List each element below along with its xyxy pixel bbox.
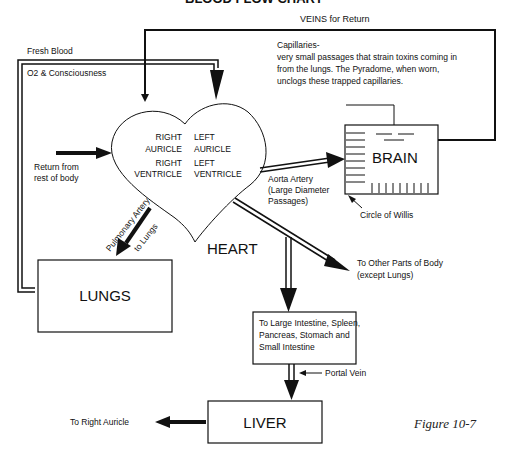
aorta-label-2: (Large Diameter xyxy=(268,185,330,195)
capillaries-line-3: unclogs these trapped capillaries. xyxy=(277,76,403,86)
heart-label: HEART xyxy=(207,240,258,257)
intestine-label: To Large Intestine, Spleen, xyxy=(259,318,360,328)
capillaries-title: Capillaries- xyxy=(277,40,320,50)
left-auricle-label: LEFT xyxy=(194,132,215,142)
to-right-auricle-label: To Right Auricle xyxy=(70,417,129,427)
capillaries-line-2: from the lungs. The Pyradome, when worn, xyxy=(277,64,439,74)
right-auricle-label-2: AURICLE xyxy=(145,144,182,154)
portal-vein-label: Portal Vein xyxy=(325,368,366,378)
to-right-auricle-arrow xyxy=(155,416,206,428)
fresh-blood-label: Fresh Blood xyxy=(27,46,73,56)
aorta-arrow xyxy=(260,152,345,172)
return-from-label: Return from xyxy=(34,162,79,172)
right-auricle-label: RIGHT xyxy=(156,132,182,142)
o2-consciousness-label: O2 & Consciousness xyxy=(27,68,106,78)
aorta-label: Aorta Artery xyxy=(268,174,314,184)
return-arrow xyxy=(56,147,112,159)
intestine-label-3: Small Intestine xyxy=(259,342,315,352)
intestine-arrow xyxy=(280,237,297,312)
return-from-label-2: rest of body xyxy=(34,173,79,183)
portal-vein-arrow xyxy=(284,364,299,400)
figure-caption: Figure 10-7 xyxy=(413,416,476,431)
right-ventricle-label: RIGHT xyxy=(156,158,182,168)
left-ventricle-label: LEFT xyxy=(194,158,215,168)
intestine-label-2: Pancreas, Stomach and xyxy=(259,330,350,340)
liver-label: LIVER xyxy=(243,414,287,431)
blood-flow-diagram: BLOOD FLOW CHART VEINS for Return Fresh … xyxy=(0,0,508,457)
other-parts-label-2: (except Lungs) xyxy=(357,270,413,280)
diagram-title: BLOOD FLOW CHART xyxy=(185,0,323,6)
veins-return-label: VEINS for Return xyxy=(300,14,370,24)
lungs-label: LUNGS xyxy=(79,287,131,304)
right-ventricle-label-2: VENTRICLE xyxy=(134,169,182,179)
left-ventricle-label-2: VENTRICLE xyxy=(194,169,242,179)
brain-label: BRAIN xyxy=(372,149,418,166)
aorta-label-3: Passages) xyxy=(268,196,308,206)
other-parts-label: To Other Parts of Body xyxy=(357,258,444,268)
circle-of-willis-label: Circle of Willis xyxy=(360,210,413,220)
left-auricle-label-2: AURICLE xyxy=(194,144,231,154)
capillaries-line-1: very small passages that strain toxins c… xyxy=(277,52,457,62)
